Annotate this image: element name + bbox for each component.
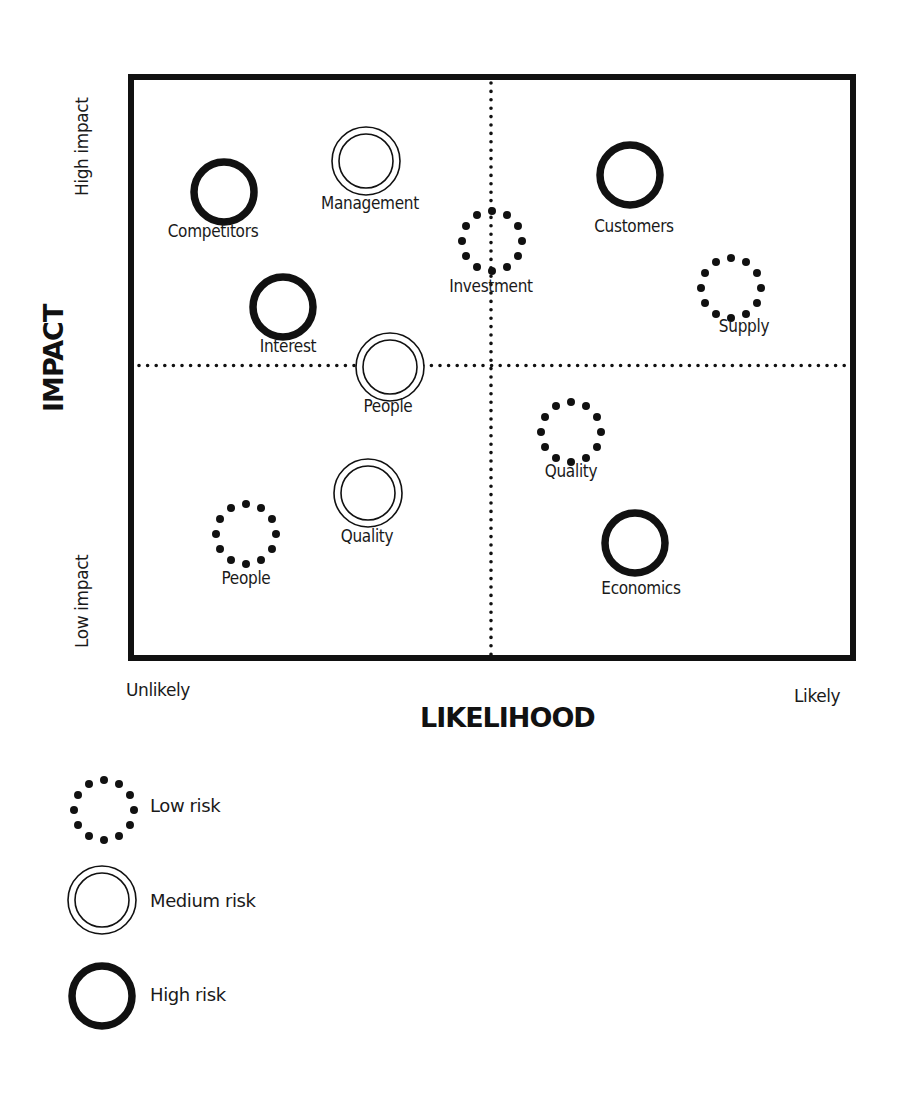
legend-label-medium-risk: Medium risk: [150, 890, 256, 911]
point-label-interest-high: Interest: [260, 336, 317, 356]
x-axis-max-label: Likely: [794, 686, 840, 706]
risk-matrix-figure: CompetitorsManagementInvestmentCustomers…: [0, 0, 900, 1099]
legend-item-medium-risk: Medium risk: [66, 866, 326, 938]
x-axis-title: LIKELIHOOD: [420, 702, 595, 733]
legend-label-low-risk: Low risk: [150, 795, 220, 816]
point-label-management-medium: Management: [321, 193, 419, 213]
risk-marker-people-medium: [356, 333, 424, 401]
point-label-people-low: People: [222, 568, 271, 588]
risk-marker-people-low: [212, 500, 280, 568]
point-label-quality-low: Quality: [545, 461, 598, 481]
legend-label-high-risk: High risk: [150, 984, 226, 1005]
legend-item-low-risk: Low risk: [66, 775, 326, 847]
risk-marker-supply-low: [697, 254, 765, 322]
risk-marker-competitors-high: [194, 162, 254, 222]
x-axis-min-label: Unlikely: [126, 680, 190, 700]
risk-marker-quality-low: [537, 398, 605, 466]
point-label-customers-high: Customers: [594, 216, 674, 236]
risk-marker-interest-high: [253, 277, 313, 337]
point-label-economics-high: Economics: [601, 578, 680, 598]
y-axis-min-label: Low impact: [72, 555, 92, 648]
risk-marker-economics-high: [605, 513, 665, 573]
point-label-investment-low: Investment: [449, 276, 533, 296]
point-label-competitors-high: Competitors: [168, 221, 259, 241]
risk-marker-quality-medium: [334, 459, 402, 527]
risk-marker-management-medium: [332, 127, 400, 195]
y-axis-title: IMPACT: [38, 305, 69, 412]
legend-item-high-risk: High risk: [66, 962, 326, 1034]
point-label-people-medium: People: [364, 396, 413, 416]
point-label-quality-medium: Quality: [341, 526, 394, 546]
point-label-supply-low: Supply: [719, 316, 769, 336]
y-axis-max-label: High impact: [72, 97, 92, 196]
risk-marker-customers-high: [600, 145, 660, 205]
